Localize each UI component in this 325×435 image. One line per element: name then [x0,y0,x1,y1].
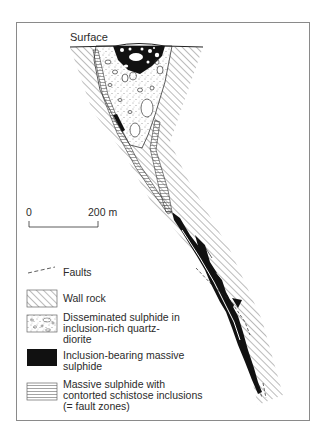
legend-fault-zone-label-3: (= fault zones) [63,401,130,413]
surface-label: Surface [70,32,108,44]
legend-wall-rock-label: Wall rock [63,293,106,305]
faults-legend-symbol [28,267,55,273]
scale-bar-end-label: 200 m [88,207,117,219]
legend-massive-sulphide-label-2: sulphide [63,361,102,373]
scale-bar [29,221,98,227]
legend-diorite-symbol [27,315,57,332]
legend-massive-sulphide-symbol [27,349,57,366]
legend-faults-label: Faults [63,267,92,279]
legend-wall-rock-symbol [27,290,57,307]
legend-fault-zone-symbol [27,383,57,400]
cross-section-diagram [0,0,325,435]
scale-bar-start-label: 0 [26,207,32,219]
legend-diorite-label-3: diorite [63,334,92,346]
